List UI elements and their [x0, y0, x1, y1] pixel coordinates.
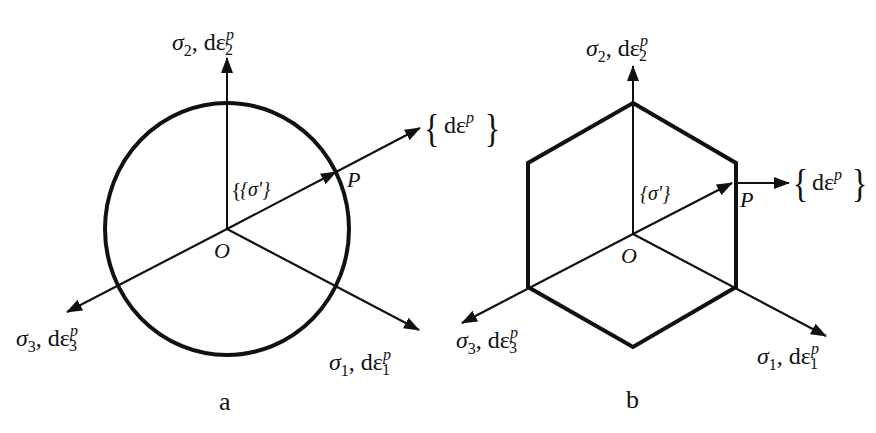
yield-surface-diagram: σ2, dεp2 σ3, dεp3 σ1, dεp1 O P { {σ'} { … — [0, 0, 876, 433]
flow-vector-label: { dεp } — [424, 107, 500, 151]
origin-label: O — [621, 243, 637, 268]
svg-text:{σ'}: {σ'} — [640, 182, 670, 204]
stress-vector-label: { {σ'} — [231, 177, 270, 202]
panel-a-caption: a — [219, 387, 231, 416]
sigma2-label: σ2, dεp2 — [586, 32, 648, 65]
svg-text:}: } — [852, 162, 867, 206]
sigma3-label: σ3, dεp3 — [456, 324, 518, 357]
flow-vector-label: { dεp } — [793, 162, 868, 206]
origin-label: O — [214, 238, 230, 263]
sigma3-label: σ3, dεp3 — [16, 322, 78, 355]
panel-b-caption: b — [626, 385, 639, 414]
panel-b: σ2, dεp2 σ3, dεp3 σ1, dεp1 O P {σ'} { dε… — [456, 32, 867, 414]
sigma2-label: σ2, dεp2 — [172, 26, 234, 59]
point-p-label: P — [346, 167, 360, 192]
plastic-strain-vector — [336, 128, 420, 172]
svg-text:dεp: dεp — [812, 166, 842, 195]
point-p-label: P — [739, 187, 753, 212]
sigma1-label: σ1, dεp1 — [757, 340, 819, 373]
svg-text:}: } — [485, 107, 500, 151]
sigma3-axis — [67, 229, 227, 312]
svg-text:{σ'}: {σ'} — [240, 178, 270, 200]
panel-a: σ2, dεp2 σ3, dεp3 σ1, dεp1 O P { {σ'} { … — [16, 26, 500, 416]
svg-text:{: { — [793, 162, 808, 206]
sigma1-axis — [227, 229, 419, 330]
sigma1-axis — [633, 234, 826, 336]
stress-vector-label: {σ'} — [640, 182, 670, 204]
svg-text:{: { — [424, 107, 439, 151]
svg-text:dεp: dεp — [444, 109, 474, 138]
sigma1-label: σ1, dεp1 — [329, 346, 391, 379]
sigma3-axis — [462, 234, 633, 323]
